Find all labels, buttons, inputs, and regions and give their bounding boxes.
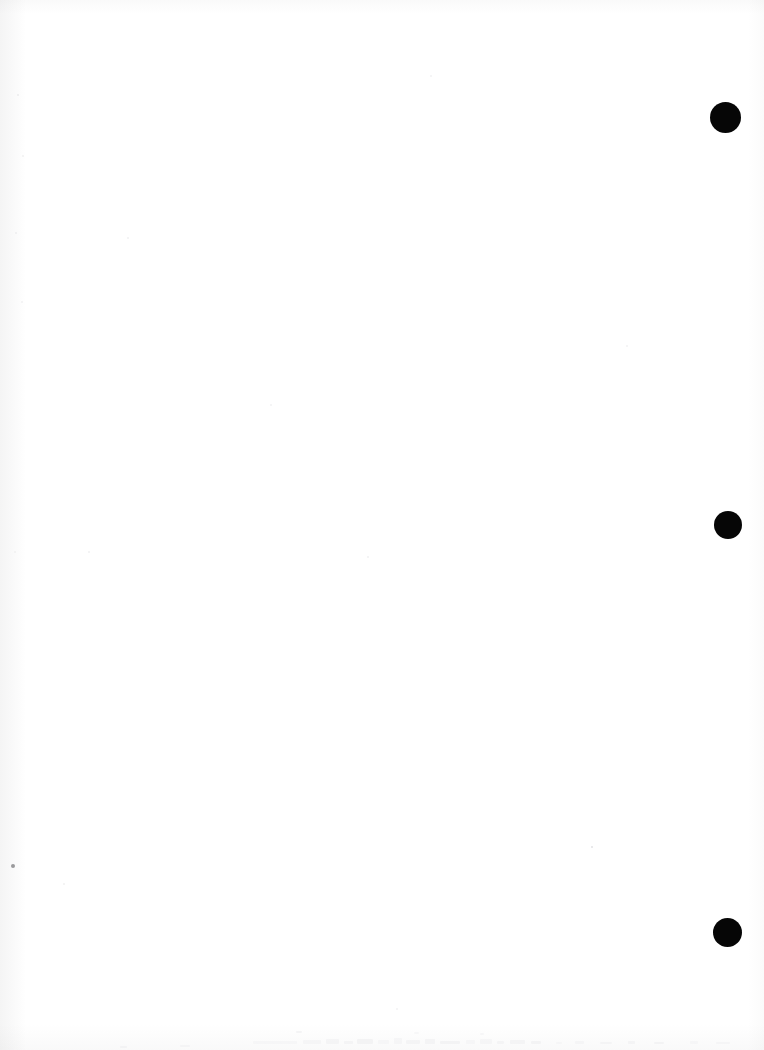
bottom-smudge-22 (716, 1042, 730, 1044)
bottom-smudge-14 (510, 1040, 525, 1044)
bottom-smudge-9 (425, 1039, 435, 1044)
bottom-smudge-23 (180, 1045, 190, 1047)
bottom-smudge-16 (556, 1042, 562, 1044)
bottom-smudge-26 (414, 1032, 419, 1034)
bottom-smudge-7 (394, 1038, 402, 1044)
bottom-smudge-17 (575, 1041, 584, 1044)
bottom-smudge-21 (690, 1041, 698, 1044)
speck-left-lower (14, 551, 16, 553)
bottom-smudge-8 (406, 1040, 420, 1044)
speck-left-margin (11, 864, 15, 868)
speck-right-upper (430, 75, 432, 77)
bottom-smudge-18 (600, 1042, 612, 1044)
bottom-smudge-10 (440, 1041, 460, 1044)
bottom-smudge-25 (296, 1031, 302, 1033)
circle-mark-2 (714, 511, 742, 539)
speck-center-upper (127, 237, 129, 239)
speck-center (270, 404, 272, 406)
speck-center-low (88, 551, 90, 553)
bottom-smudge-27 (480, 1033, 484, 1035)
bottom-smudge-5 (357, 1039, 373, 1044)
bottom-smudge-3 (326, 1039, 339, 1044)
speck-upper-left (17, 94, 19, 96)
bottom-smudge-19 (628, 1041, 635, 1044)
circle-mark-3 (713, 918, 742, 947)
speck-bottom-left (63, 883, 65, 885)
speck-upper-left-2 (22, 155, 24, 157)
bottom-smudge-4 (344, 1041, 353, 1044)
speck-mid-right (591, 846, 593, 848)
speck-left-mid (21, 301, 23, 303)
bottom-smudge-13 (497, 1041, 504, 1044)
bottom-smudge-12 (480, 1039, 492, 1044)
speck-left-upper (15, 232, 17, 234)
bottom-smudge-24 (120, 1046, 127, 1048)
bottom-smudge-15 (531, 1041, 541, 1044)
bottom-smudge-2 (303, 1040, 321, 1044)
scanned-page (0, 0, 764, 1050)
speck-right-low (626, 345, 628, 347)
paper-background (0, 0, 764, 1050)
bottom-smudge-1 (253, 1041, 297, 1044)
bottom-smudge-6 (378, 1040, 389, 1044)
circle-mark-1 (710, 102, 741, 133)
bottom-smudge-11 (466, 1040, 475, 1044)
speck-bottom-mid (396, 1008, 398, 1010)
bottom-smudge-20 (654, 1042, 664, 1044)
speck-right-mid (367, 556, 369, 558)
